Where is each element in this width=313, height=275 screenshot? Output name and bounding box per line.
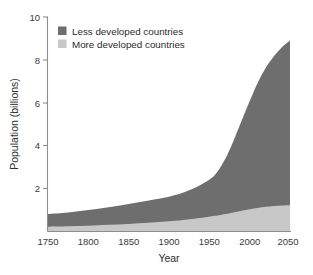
x-tick-label-2050: 2050 <box>277 236 298 247</box>
x-tick-label-1950: 1950 <box>199 236 220 247</box>
x-tick-label-1750: 1750 <box>37 236 58 247</box>
legend-label-less-developed-countries: Less developed countries <box>72 26 183 37</box>
y-tick-label-4: 4 <box>35 140 40 151</box>
chart-canvas: 10 8 6 4 2 Population (billions) 1750 18… <box>0 0 313 275</box>
x-axis-title: Year <box>158 252 180 264</box>
x-tick-label-2000: 2000 <box>239 236 260 247</box>
legend-swatch-more-developed-countries <box>58 40 67 49</box>
y-tick-label-2: 2 <box>35 183 40 194</box>
y-tick-label-10: 10 <box>29 12 40 23</box>
y-axis-title: Population (billions) <box>8 78 20 170</box>
population-area-chart: 10 8 6 4 2 Population (billions) 1750 18… <box>0 0 313 275</box>
x-tick-label-1900: 1900 <box>158 236 179 247</box>
legend-label-more-developed-countries: More developed countries <box>72 39 185 50</box>
y-tick-label-8: 8 <box>35 55 40 66</box>
y-tick-label-6: 6 <box>35 98 40 109</box>
x-tick-label-1850: 1850 <box>118 236 139 247</box>
x-tick-label-1800: 1800 <box>78 236 99 247</box>
legend-swatch-less-developed-countries <box>58 27 67 36</box>
